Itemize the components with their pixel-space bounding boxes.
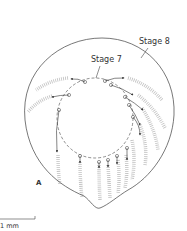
cell-migration-trails [28, 78, 165, 200]
cell-markers [57, 79, 134, 163]
diagram-figure: Stage 8 Stage 7 A 1 mm [0, 0, 187, 231]
migration-arrows [52, 78, 143, 168]
stage-8-label: Stage 8 [139, 37, 170, 46]
stage-7-outline [57, 78, 133, 158]
embryo-diagram [0, 0, 187, 231]
scale-bar-label: 1 mm [0, 222, 19, 230]
stage-7-label: Stage 7 [91, 55, 122, 64]
stage-7-leader [96, 66, 100, 78]
panel-label: A [36, 179, 41, 187]
scale-bar [0, 216, 35, 219]
